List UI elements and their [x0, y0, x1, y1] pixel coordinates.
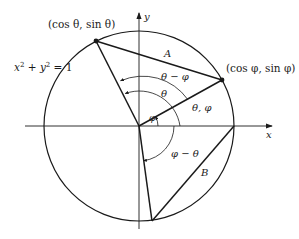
angle-theta-label: θ	[161, 88, 167, 99]
arc-phi	[156, 117, 158, 126]
radius-theta	[96, 41, 139, 126]
theta-point-label: (cos θ, sin θ)	[48, 18, 115, 30]
unit-circle-diagram: (cos θ, sin θ) (cos φ, sin φ) x2 + y2 = …	[0, 0, 299, 239]
phi-point-dot	[220, 78, 225, 83]
angle-theta-phi-label: θ, φ	[192, 102, 211, 113]
phi-point-label: (cos φ, sin φ)	[226, 62, 295, 74]
chord-A	[96, 41, 222, 80]
angle-phi-label: φ	[149, 113, 156, 123]
angle-theta-minus-phi-label: θ − φ	[161, 71, 189, 82]
circle-equation-label: x2 + y2 = 1	[14, 61, 72, 73]
theta-point-dot	[94, 39, 99, 44]
angle-phi-minus-theta-label: φ − θ	[171, 148, 199, 159]
x-axis-label: x	[266, 129, 272, 140]
y-axis-label: y	[143, 11, 150, 22]
chord-A-label: A	[163, 48, 171, 59]
chord-B-label: B	[200, 167, 208, 178]
radius-lower	[139, 126, 152, 221]
arc-phi-minus-theta	[144, 126, 174, 161]
